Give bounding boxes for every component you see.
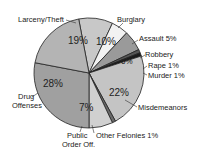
label-robbery: Robbery	[145, 51, 173, 59]
label-public-order-1: Public	[67, 132, 87, 140]
label-murder: Murder 1%	[148, 72, 185, 80]
label-larceny: Larceny/Theft	[18, 16, 64, 24]
label-burglary: Burglary	[117, 16, 145, 24]
label-drug-1: Drug	[18, 93, 34, 101]
pct-misdemeanors: 22%	[109, 88, 129, 98]
pct-larceny: 19%	[68, 36, 88, 46]
pct-robbery: 6%	[121, 57, 133, 67]
pct-drug: 28%	[43, 79, 63, 89]
pct-burglary: 10%	[96, 37, 116, 47]
label-public-order-2: Order Off.	[62, 141, 95, 149]
label-assault: Assault 5%	[139, 35, 177, 43]
label-other-felonies: Other Felonies 1%	[96, 132, 158, 140]
label-drug-2: Offenses	[12, 102, 42, 110]
label-misdemeanors: Misdemeanors	[138, 104, 187, 112]
pct-public-order: 7%	[79, 103, 93, 113]
pie-slice-drug-offenses	[34, 63, 89, 128]
label-rape: Rape 1%	[148, 62, 179, 70]
